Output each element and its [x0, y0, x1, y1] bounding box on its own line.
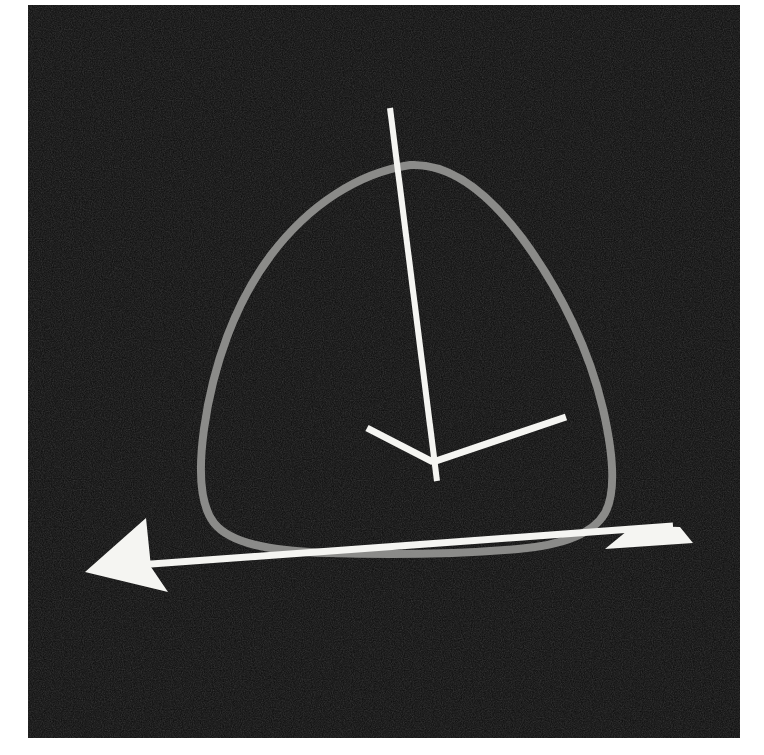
- film-grain-top-overlay: [28, 5, 740, 738]
- figure-page: [0, 0, 764, 755]
- figure-photo: [28, 5, 740, 738]
- figure-svg: [28, 5, 740, 738]
